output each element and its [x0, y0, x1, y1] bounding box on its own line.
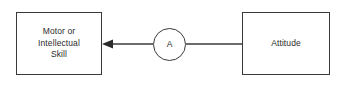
node-relation-circle[interactable]: A [153, 28, 186, 61]
diagram-canvas: Motor or Intellectual Skill A Attitude [0, 0, 346, 87]
arrowhead-left-icon [102, 40, 113, 49]
node-label-relation: A [167, 40, 173, 49]
